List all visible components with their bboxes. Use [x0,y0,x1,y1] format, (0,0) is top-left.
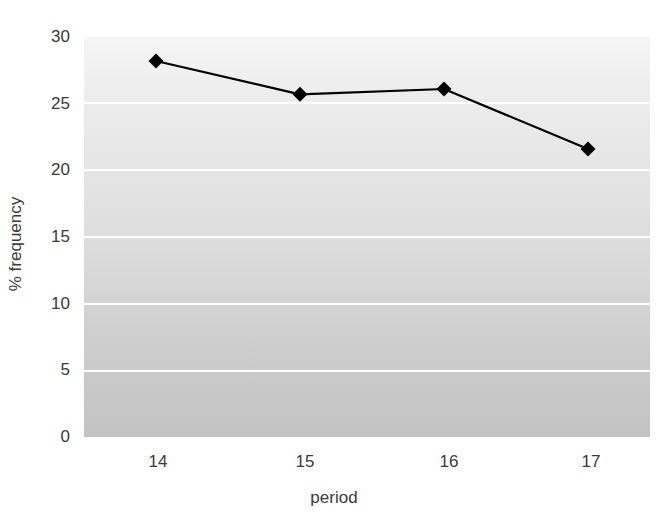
x-tick-label-16: 16 [440,452,459,472]
x-axis-tick-labels: 14 15 16 17 [0,0,668,521]
x-tick-label-14: 14 [149,452,168,472]
x-tick-label-17: 17 [582,452,601,472]
y-axis-title: % frequency [6,144,26,344]
chart-figure: 30 25 20 15 10 5 0 14 15 16 17 period % … [0,0,668,521]
x-axis-title: period [0,488,668,508]
x-tick-label-15: 15 [296,452,315,472]
